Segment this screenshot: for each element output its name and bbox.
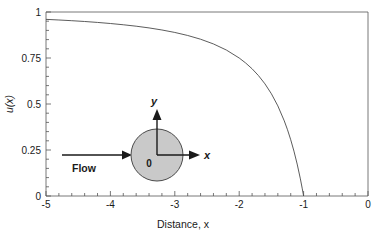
inset-y-axis-label: y [150,95,158,107]
inset-x-axis-label: x [203,149,211,161]
x-tick-label: 0 [365,199,371,210]
x-axis-title: Distance, x [157,218,210,230]
x-tick-label: -3 [170,199,179,210]
chart-svg: -5 -4 -3 -2 -1 0 0 0.25 0.5 0.75 1 Dista… [0,0,381,234]
y-tick-label: 0.5 [27,99,41,110]
y-tick-label: 0.75 [22,53,42,64]
x-tick-label: -2 [235,199,244,210]
inset-origin-label: 0 [146,158,152,169]
y-tick-label: 0 [35,191,41,202]
chart-figure: -5 -4 -3 -2 -1 0 0 0.25 0.5 0.75 1 Dista… [0,0,381,234]
y-axis-title: u(x) [3,95,15,113]
x-tick-label: -4 [106,199,115,210]
x-tick-label: -5 [42,199,51,210]
chart-background [0,0,381,234]
x-axis-title-text: Distance, x [157,218,210,230]
y-axis-title-text: u(x) [3,95,15,113]
y-tick-label: 1 [35,7,41,18]
flow-label: Flow [72,162,97,174]
x-tick-label: -1 [299,199,308,210]
y-tick-label: 0.25 [22,145,42,156]
